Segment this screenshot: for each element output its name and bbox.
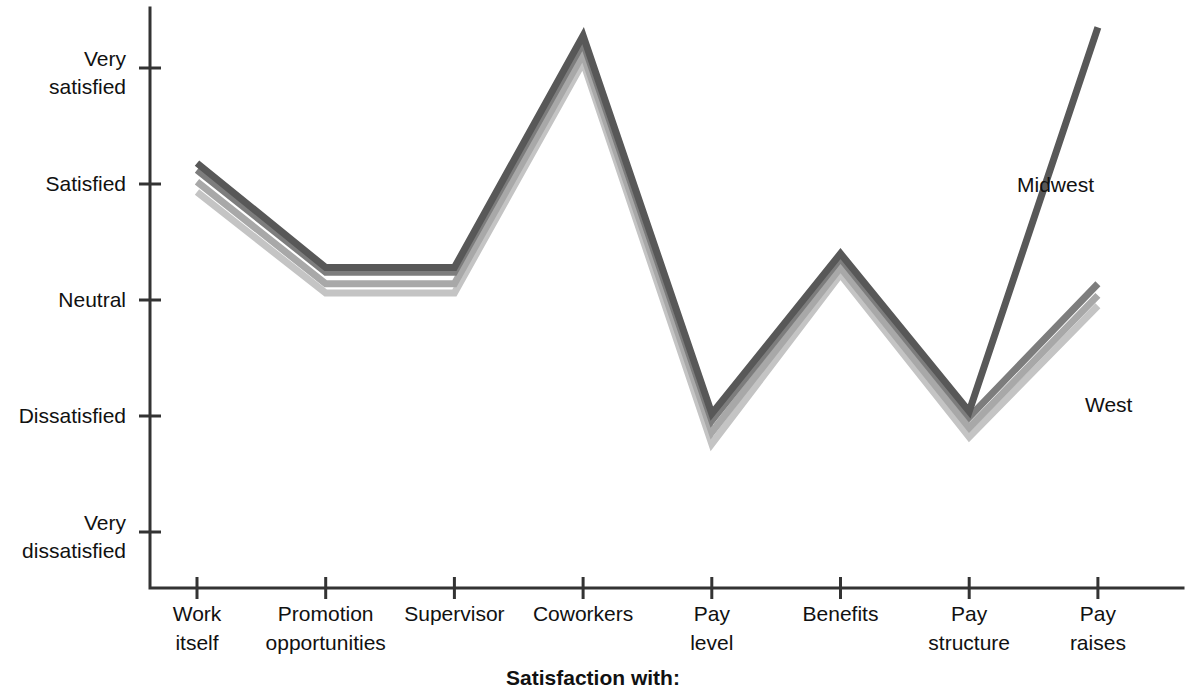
y-tick-label: Neutral [58, 288, 126, 311]
x-tick-label: Coworkers [533, 602, 633, 625]
series-layer [197, 27, 1098, 443]
y-axis-tick-labels: VerysatisfiedSatisfiedNeutralDissatisfie… [19, 47, 127, 562]
y-tick-label: satisfied [49, 75, 126, 98]
x-tick-label: structure [928, 631, 1010, 654]
series-line-midwest [197, 27, 1098, 413]
satisfaction-line-chart: VerysatisfiedSatisfiedNeutralDissatisfie… [0, 0, 1185, 695]
x-tick-label: Promotion [278, 602, 374, 625]
x-tick-label: Benefits [803, 602, 879, 625]
x-tick-label: Pay [951, 602, 988, 625]
x-tick-label: raises [1070, 631, 1126, 654]
series-line-south [197, 54, 1098, 432]
y-tick-label: dissatisfied [22, 539, 126, 562]
x-tick-label: opportunities [266, 631, 386, 654]
x-tick-label: Work [173, 602, 222, 625]
y-tick-label: Dissatisfied [19, 404, 126, 427]
x-tick-label: Supervisor [404, 602, 504, 625]
y-tick-label: Very [84, 511, 127, 534]
y-tick-label: Very [84, 47, 127, 70]
x-tick-label: itself [175, 631, 218, 654]
chart-container: VerysatisfiedSatisfiedNeutralDissatisfie… [0, 0, 1185, 695]
x-tick-label: Pay [1080, 602, 1117, 625]
x-tick-label: level [690, 631, 733, 654]
series-label-midwest: Midwest [1017, 173, 1094, 196]
series-label-west: West [1085, 393, 1133, 416]
x-axis-title: Satisfaction with: [506, 666, 680, 689]
x-tick-label: Pay [694, 602, 731, 625]
y-tick-label: Satisfied [45, 172, 126, 195]
x-axis-tick-labels: WorkitselfPromotionopportunitiesSupervis… [173, 602, 1126, 654]
